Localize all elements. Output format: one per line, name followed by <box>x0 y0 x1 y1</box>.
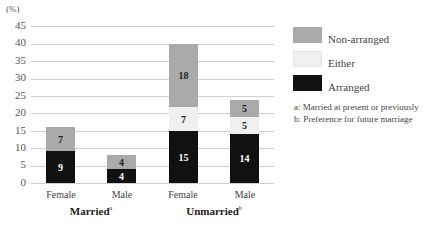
x-label-married-female: Female <box>31 189 91 200</box>
segment-non-arranged: 18 <box>169 44 198 107</box>
y-tick-25: 25 <box>6 89 26 101</box>
x-label-married-male: Male <box>92 189 152 200</box>
bar-unmarried-female: 18 7 15 <box>169 44 198 183</box>
note-unmarried: b: Preference for future marriage <box>294 114 412 124</box>
y-tick-10: 10 <box>6 141 26 153</box>
y-tick-45: 45 <box>6 19 26 31</box>
y-tick-15: 15 <box>6 124 26 136</box>
gridline-25 <box>31 96 274 97</box>
legend-swatch-arranged <box>293 75 322 91</box>
legend-item-non-arranged: Non-arranged <box>293 27 389 43</box>
segment-either: 7 <box>169 107 198 131</box>
segment-arranged: 9 <box>46 151 75 183</box>
segment-either: 5 <box>230 117 259 134</box>
x-label-unmarried-male: Male <box>215 189 275 200</box>
y-tick-40: 40 <box>6 36 26 48</box>
legend-swatch-either <box>293 51 322 67</box>
y-tick-20: 20 <box>6 106 26 118</box>
segment-non-arranged: 5 <box>230 100 259 117</box>
legend-item-either: Either <box>293 51 389 67</box>
bar-married-male: 4 4 <box>107 155 136 183</box>
group-label-unmarried: Unmarriedb <box>164 205 264 217</box>
group-label-married: Marrieda <box>41 205 141 217</box>
segment-arranged: 4 <box>107 169 136 183</box>
y-tick-30: 30 <box>6 71 26 83</box>
bar-unmarried-male: 5 5 14 <box>230 100 259 183</box>
bar-married-female: 7 9 <box>46 127 75 183</box>
segment-non-arranged: 7 <box>46 127 75 151</box>
y-tick-5: 5 <box>6 158 26 170</box>
legend: Non-arranged Either Arranged <box>293 27 389 91</box>
legend-item-arranged: Arranged <box>293 75 389 91</box>
segment-arranged: 14 <box>230 134 259 183</box>
gridline-0 <box>31 183 274 184</box>
segment-arranged: 15 <box>169 131 198 183</box>
segment-non-arranged: 4 <box>107 155 136 169</box>
note-married: a: Married at present or previously <box>294 102 419 112</box>
legend-swatch-non-arranged <box>293 27 322 43</box>
y-tick-0: 0 <box>6 176 26 188</box>
y-tick-35: 35 <box>6 54 26 66</box>
gridline-30 <box>31 79 274 80</box>
gridline-35 <box>31 61 274 62</box>
gridline-45 <box>31 26 274 27</box>
x-label-unmarried-female: Female <box>153 189 213 200</box>
y-axis-unit: (%) <box>6 4 20 14</box>
gridline-40 <box>31 44 274 45</box>
